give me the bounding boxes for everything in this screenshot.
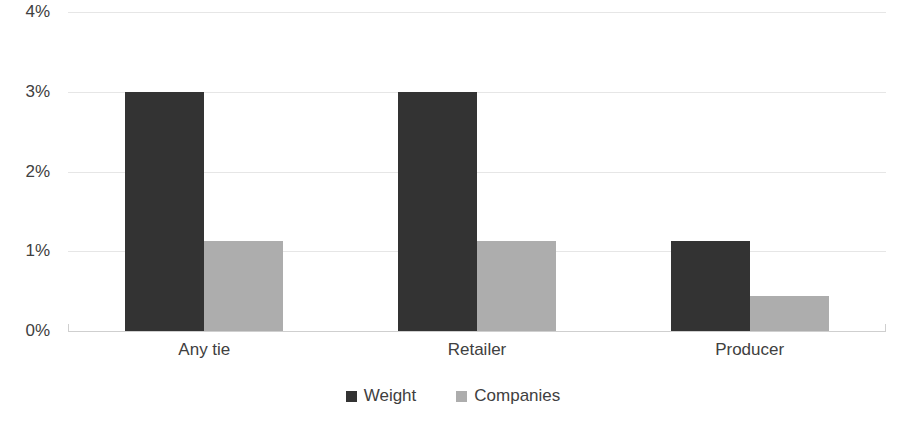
y-axis-tick-label: 1% (25, 241, 50, 261)
legend-item[interactable]: Weight (346, 386, 417, 406)
legend-label: Weight (364, 386, 417, 406)
legend-swatch-icon (346, 391, 357, 402)
legend-label: Companies (474, 386, 560, 406)
plot-area (68, 12, 886, 331)
y-axis-tick-label: 2% (25, 162, 50, 182)
bar[interactable] (477, 241, 556, 331)
bar[interactable] (204, 241, 283, 331)
legend-item[interactable]: Companies (456, 386, 560, 406)
legend-swatch-icon (456, 391, 467, 402)
y-axis-tick-label: 0% (25, 321, 50, 341)
bar-group (398, 12, 556, 331)
x-axis: Any tieRetailerProducer (68, 340, 886, 370)
x-axis-category-label: Retailer (448, 340, 507, 360)
bar-group (671, 12, 829, 331)
y-axis-tick-label: 4% (25, 2, 50, 22)
axis-tick-right (885, 324, 886, 331)
y-axis: 0%1%2%3%4% (0, 0, 58, 429)
bar[interactable] (671, 241, 750, 331)
bar-chart: 0%1%2%3%4% Any tieRetailerProducer Weigh… (0, 0, 906, 429)
axis-tick-left (68, 324, 69, 331)
bar-group (125, 12, 283, 331)
gridline-0% (68, 331, 886, 332)
x-axis-category-label: Producer (715, 340, 784, 360)
bar[interactable] (125, 92, 204, 331)
chart-legend: WeightCompanies (0, 386, 906, 406)
y-axis-tick-label: 3% (25, 82, 50, 102)
x-axis-category-label: Any tie (178, 340, 230, 360)
bar[interactable] (398, 92, 477, 331)
bar[interactable] (750, 296, 829, 331)
